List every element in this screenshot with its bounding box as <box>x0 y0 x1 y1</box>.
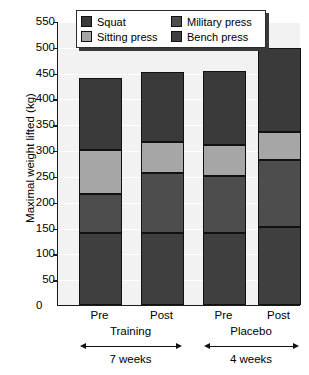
y-axis-tick-label: 350 <box>15 119 55 131</box>
duration-arrow-head-right <box>293 343 299 349</box>
legend-label-military-press: Military press <box>187 16 252 28</box>
bar-segment-sitting-press <box>141 142 184 173</box>
duration-arrow-line <box>86 346 176 347</box>
legend-label-squat: Squat <box>97 16 126 28</box>
y-axis-tick-label: 250 <box>15 171 55 183</box>
x-axis-tick-label-1: Pre <box>70 309 130 321</box>
y-axis-tick-label: 500 <box>15 42 55 54</box>
chart-legend: Squat Military press Sitting press Bench… <box>76 10 266 48</box>
y-axis-tick-label: 50 <box>15 274 55 286</box>
bar-segment-military-press <box>79 194 122 233</box>
bar-4 <box>258 48 301 305</box>
x-axis-group-label-training: Training <box>71 325 191 337</box>
legend-item-squat: Squat <box>81 16 171 28</box>
bar-segment-sitting-press <box>203 145 246 176</box>
bar-2 <box>141 72 184 305</box>
bar-segment-bench-press <box>79 233 122 305</box>
bar-segment-squat <box>258 48 301 132</box>
y-axis-tick-label: 400 <box>15 93 55 105</box>
duration-label-2: 4 weeks <box>191 353 308 365</box>
bar-segment-squat <box>79 78 122 150</box>
y-axis-tick-label: 150 <box>15 223 55 235</box>
legend-item-bench-press: Bench press <box>171 31 261 43</box>
bar-segment-bench-press <box>203 233 246 305</box>
bar-segment-sitting-press <box>258 132 301 160</box>
bar-segment-squat <box>141 72 184 143</box>
legend-row: Squat Military press <box>81 14 261 29</box>
bar-1 <box>79 78 122 305</box>
y-axis-tick-label: 200 <box>15 197 55 209</box>
bar-segment-bench-press <box>258 227 301 305</box>
y-axis-zero-label: 0 <box>36 299 42 311</box>
legend-swatch-bench-press <box>171 31 182 42</box>
duration-arrow-head-left <box>80 343 86 349</box>
legend-label-bench-press: Bench press <box>187 31 248 43</box>
bar-segment-military-press <box>203 176 246 233</box>
y-axis-tick-label: 300 <box>15 145 55 157</box>
duration-arrow-line <box>210 346 293 347</box>
x-axis-tick-label-2: Post <box>132 309 192 321</box>
y-axis-tick-label: 100 <box>15 248 55 260</box>
legend-row: Sitting press Bench press <box>81 29 261 44</box>
x-axis-group-label-placebo: Placebo <box>191 325 308 337</box>
duration-label-1: 7 weeks <box>71 353 191 365</box>
x-axis-tick-label-3: Pre <box>194 309 254 321</box>
stacked-bar-chart-figure: Maximal weight lifted (kg) 5010015020025… <box>0 0 308 375</box>
bar-segment-bench-press <box>141 233 184 305</box>
y-axis-tick-label: 450 <box>15 68 55 80</box>
duration-arrow-head-right <box>176 343 182 349</box>
x-axis-tick-label-4: Post <box>249 309 309 321</box>
bar-segment-sitting-press <box>79 150 122 194</box>
bar-segment-military-press <box>141 173 184 232</box>
legend-item-sitting-press: Sitting press <box>81 31 171 43</box>
bar-3 <box>203 71 246 305</box>
legend-swatch-squat <box>81 16 92 27</box>
y-axis-tick-label: 550 <box>15 16 55 28</box>
legend-swatch-military-press <box>171 16 182 27</box>
legend-swatch-sitting-press <box>81 31 92 42</box>
legend-label-sitting-press: Sitting press <box>97 31 158 43</box>
bar-segment-military-press <box>258 160 301 226</box>
plot-area <box>57 22 300 306</box>
duration-arrow-head-left <box>204 343 210 349</box>
bar-segment-squat <box>203 71 246 145</box>
legend-item-military-press: Military press <box>171 16 261 28</box>
